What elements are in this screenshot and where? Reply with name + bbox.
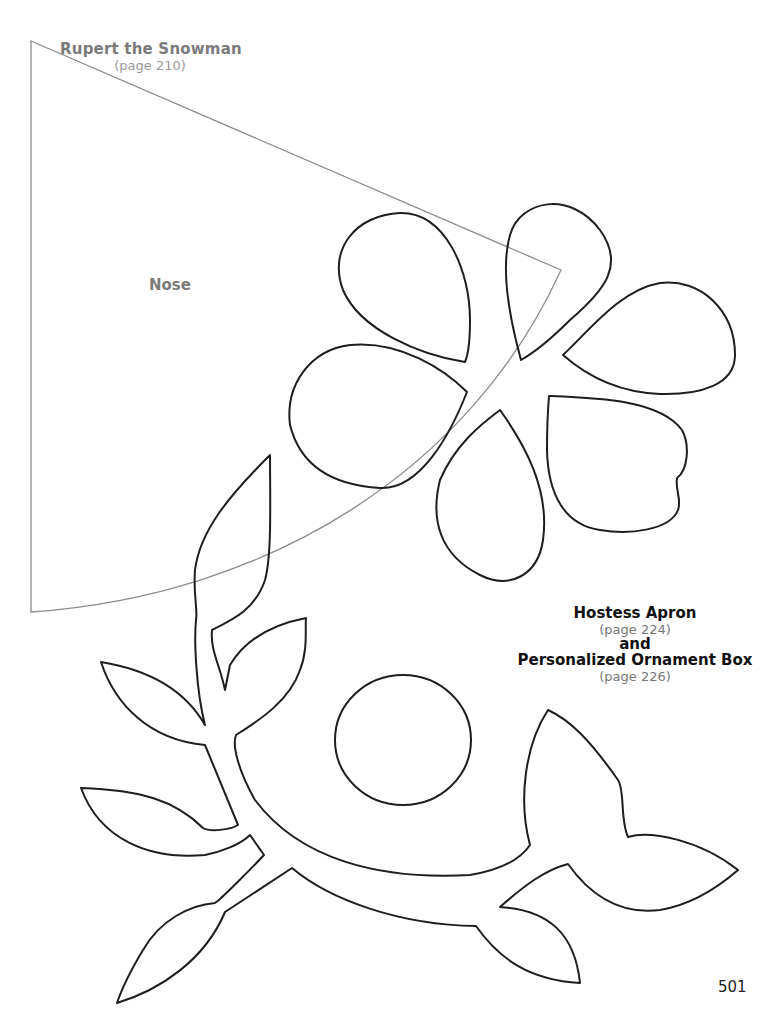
circle-pattern [335, 675, 471, 805]
pattern-page: Rupert the Snowman (page 210) Nose Hoste… [0, 0, 774, 1026]
vine-with-leaves [81, 455, 738, 1003]
apron-title: Hostess Apron [510, 604, 760, 622]
flower-petal-top-left [339, 213, 470, 362]
flower-petal-top [506, 204, 611, 360]
flower-petal-bottom-right [547, 396, 687, 532]
nose-pattern-outline [31, 41, 561, 612]
rupert-label-block: Rupert the Snowman (page 210) [60, 40, 240, 73]
flower-petal-bottom [436, 410, 544, 581]
flower-petal-left [289, 344, 467, 488]
apron-label-block: Hostess Apron (page 224) and Personalize… [510, 604, 760, 684]
rupert-title: Rupert the Snowman [60, 40, 240, 58]
ornament-box-page-ref: (page 226) [510, 669, 760, 684]
rupert-page-ref: (page 210) [60, 58, 240, 73]
page-number: 501 [718, 978, 747, 996]
nose-label: Nose [140, 276, 200, 294]
flower-petal-right [563, 282, 735, 394]
ornament-box-title: Personalized Ornament Box [510, 651, 760, 669]
pattern-artwork [0, 0, 774, 1026]
and-connector: and [510, 637, 760, 651]
